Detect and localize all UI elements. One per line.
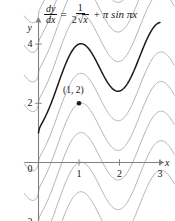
y-tick-label: 4: [12, 38, 33, 49]
point-marker: [77, 101, 82, 106]
annotation-point-label: (1, 2): [63, 85, 84, 95]
plus-sign: +: [94, 9, 100, 20]
differential-equation-figure: dy dx = 1 2√x + π sin πx y x 1236420−2 (…: [0, 0, 175, 221]
family-curve: [24, 52, 174, 171]
radicand: x: [82, 14, 88, 25]
rhs-fraction: 1 2√x: [70, 3, 91, 25]
y-tick-label: 0: [12, 163, 33, 174]
annotation-dot: [77, 101, 82, 106]
family-curve: [24, 82, 174, 201]
x-tick-label: 1: [69, 168, 89, 179]
derivative-numerator: dy: [44, 4, 57, 15]
x-axis-label: x: [165, 157, 169, 168]
family-curve: [24, 141, 174, 221]
axes: [24, 0, 164, 221]
rhs-numerator: 1: [76, 3, 85, 14]
trig-term: π sin πx: [103, 9, 137, 20]
radical-sign: √x: [77, 14, 89, 25]
rhs-denominator: 2√x: [70, 14, 91, 25]
y-axis-label: y: [28, 22, 32, 33]
derivative-fraction: dy dx: [44, 4, 57, 25]
derivative-denominator: dx: [44, 15, 57, 25]
y-tick-label: −2: [12, 216, 33, 221]
x-tick-label: 2: [110, 168, 130, 179]
family-curve: [24, 111, 174, 221]
x-tick-label: 3: [150, 168, 170, 179]
y-tick-label: 2: [12, 97, 33, 108]
solution-family-curves: [24, 0, 174, 221]
equals-sign: =: [60, 9, 66, 20]
equation-label: dy dx = 1 2√x + π sin πx: [44, 3, 137, 25]
plot-canvas: [0, 0, 175, 221]
